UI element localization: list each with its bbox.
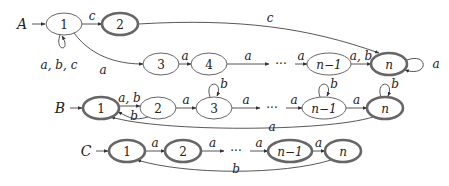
transition-label: a, b	[118, 91, 140, 105]
transition-label: a	[315, 136, 322, 150]
state-node-b-3: 3	[196, 97, 232, 119]
self-loop	[209, 84, 219, 97]
state-label: n	[385, 58, 393, 72]
state-label: 2	[154, 102, 162, 116]
transition-label: a	[268, 120, 275, 134]
state-node-c-n-minus-1: n−1	[268, 140, 312, 162]
state-node-a-2: 2	[102, 13, 138, 35]
transition-label: a, b, c	[41, 58, 78, 72]
transition-edge	[138, 22, 379, 53]
state-node-a-3: 3	[143, 53, 179, 75]
state-node-b-n: n	[367, 97, 403, 119]
state-label: 1	[97, 102, 105, 116]
ellipsis-indicator: ···	[230, 144, 241, 158]
state-label: n−1	[316, 58, 341, 72]
transition-label: c	[267, 11, 274, 25]
automata-diagram: 1234n−1n123n−1n12n−1n ·········ABCa, b, …	[0, 0, 449, 186]
automaton-name-a: A	[15, 16, 27, 32]
transition-label: a	[297, 49, 304, 63]
ellipsis-indicator: ···	[266, 101, 277, 115]
transition-label: b	[232, 162, 240, 176]
transition-edge	[111, 117, 373, 128]
state-node-c-2: 2	[165, 140, 201, 162]
transition-label: a	[99, 63, 106, 77]
self-loop	[59, 35, 65, 48]
transition-label: b	[130, 109, 138, 123]
automaton-name-c: C	[81, 143, 92, 159]
state-node-c-1: 1	[109, 140, 145, 162]
state-label: 2	[179, 145, 187, 159]
transition-label: a	[151, 136, 158, 150]
automaton-name-b: B	[54, 100, 65, 116]
transition-label: a	[290, 93, 297, 107]
transition-label: b	[330, 77, 338, 91]
transition-label: a	[353, 93, 360, 107]
state-label: n−1	[311, 102, 336, 116]
transition-label: a	[182, 93, 189, 107]
self-loop	[319, 84, 329, 97]
state-node-a-4: 4	[191, 53, 227, 75]
state-label: n	[381, 102, 389, 116]
transition-label: a, b	[350, 49, 372, 63]
state-label: n	[339, 145, 347, 159]
state-label: n−1	[277, 145, 302, 159]
ellipsis-indicator: ···	[275, 57, 286, 71]
state-node-a-1: 1	[46, 13, 82, 35]
state-node-a-n: n	[371, 53, 407, 75]
state-node-b-2: 2	[140, 97, 176, 119]
state-node-a-n-minus-1: n−1	[307, 53, 351, 75]
transition-label: b	[391, 77, 399, 91]
transition-label: a	[209, 136, 216, 150]
state-label: 1	[60, 18, 68, 32]
state-node-b-1: 1	[83, 97, 119, 119]
state-label: 2	[116, 18, 124, 32]
state-label: 3	[157, 58, 165, 72]
transition-edge	[74, 33, 143, 64]
state-label: 3	[210, 102, 218, 116]
self-loop	[380, 84, 390, 97]
transition-label: b	[220, 77, 228, 91]
transition-label: a	[244, 49, 251, 63]
transition-label: a	[242, 93, 249, 107]
state-node-c-n: n	[325, 140, 361, 162]
transition-label: a	[432, 57, 439, 71]
transition-label: a	[181, 49, 188, 63]
state-node-b-n-minus-1: n−1	[302, 97, 346, 119]
transition-label: c	[89, 9, 96, 23]
transition-label: a	[255, 136, 262, 150]
state-label: 4	[205, 58, 213, 72]
state-label: 1	[123, 145, 131, 159]
